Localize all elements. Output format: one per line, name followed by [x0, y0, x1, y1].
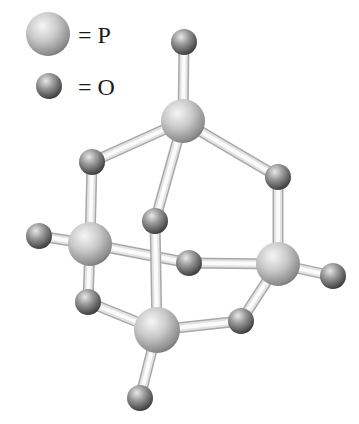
oxygen-atom-lr: [228, 308, 254, 334]
oxygen-atom-bottom: [127, 385, 153, 411]
legend-label: = O: [78, 74, 115, 100]
phosphorus-atom-top: [161, 99, 205, 143]
legend-label: = P: [78, 22, 111, 48]
oxygen-atom-top: [171, 29, 197, 55]
oxygen-atom-ul: [79, 149, 105, 175]
molecule-diagram: = P= O: [0, 0, 359, 424]
oxygen-atom-right: [320, 263, 346, 289]
phosphorus-sphere-icon: [26, 12, 70, 56]
phosphorus-atom-left: [68, 222, 112, 266]
oxygen-atom-left: [26, 223, 52, 249]
oxygen-atom-ll: [75, 289, 101, 315]
oxygen-sphere-icon: [36, 73, 62, 99]
oxygen-atom-mid: [142, 208, 168, 234]
oxygen-atom-ur: [265, 164, 291, 190]
oxygen-atom-center: [176, 250, 202, 276]
phosphorus-atom-right: [256, 242, 300, 286]
phosphorus-atom-bottom: [134, 307, 180, 353]
